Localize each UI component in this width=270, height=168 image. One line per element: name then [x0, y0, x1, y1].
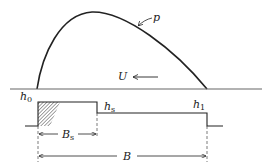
h0-label: h0 — [20, 90, 32, 104]
pressure-label: p — [153, 11, 160, 24]
h1-label: h1 — [193, 98, 205, 112]
bs-label: Bs — [61, 128, 74, 142]
pressure-leader-arrow — [138, 18, 152, 26]
b-label: B — [122, 150, 131, 163]
hatched-region — [38, 102, 60, 126]
hs-label: hs — [104, 100, 115, 114]
bearing-diagram: p U h0 hs h1 Bs B — [0, 0, 270, 168]
velocity-label: U — [118, 70, 128, 83]
